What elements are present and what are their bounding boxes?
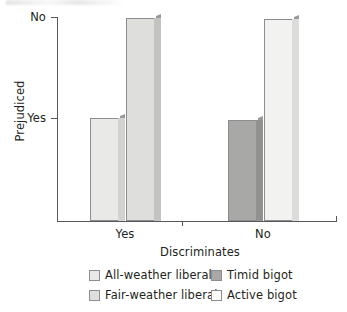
legend-label: Fair-weather liberal xyxy=(105,288,217,302)
bar-chart: No Yes Prejudiced Yes No Discriminates xyxy=(0,0,347,250)
x-group-label-yes: Yes xyxy=(85,227,165,241)
bar-side-shade xyxy=(154,18,161,221)
x-group-label-no: No xyxy=(223,227,303,241)
legend-swatch-icon xyxy=(211,270,222,281)
legend-label: Active bigot xyxy=(227,288,297,302)
bar-timid-bigot xyxy=(228,116,263,221)
legend-label: All-weather liberal xyxy=(105,268,212,282)
legend-item-all-weather-liberal: All-weather liberal xyxy=(89,268,212,282)
x-tick-mark-middle xyxy=(182,221,183,226)
legend-swatch-icon xyxy=(211,290,222,301)
y-axis-title: Prejudiced xyxy=(13,64,27,158)
bar-side-shade xyxy=(292,19,299,221)
legend-item-timid-bigot: Timid bigot xyxy=(211,268,293,282)
y-axis-line xyxy=(57,17,58,222)
bar-fair-weather-liberal xyxy=(126,14,161,221)
bar-side-shade xyxy=(256,120,263,221)
x-axis-line xyxy=(57,221,337,222)
y-tick-mark-yes xyxy=(51,118,57,119)
y-tick-label-no: No xyxy=(2,10,46,24)
legend-swatch-icon xyxy=(89,270,100,281)
legend-label: Timid bigot xyxy=(227,268,293,282)
legend-swatch-icon xyxy=(89,290,100,301)
y-tick-mark-no xyxy=(51,17,57,18)
bar-all-weather-liberal xyxy=(90,114,125,221)
legend-item-active-bigot: Active bigot xyxy=(211,288,297,302)
bar-side-shade xyxy=(118,118,125,221)
x-axis-end-cap xyxy=(336,216,337,222)
bar-active-bigot xyxy=(264,15,299,221)
legend-item-fair-weather-liberal: Fair-weather liberal xyxy=(89,288,217,302)
x-axis-title: Discriminates xyxy=(120,245,280,259)
chart-legend: All-weather liberal Fair-weather liberal… xyxy=(0,268,347,312)
